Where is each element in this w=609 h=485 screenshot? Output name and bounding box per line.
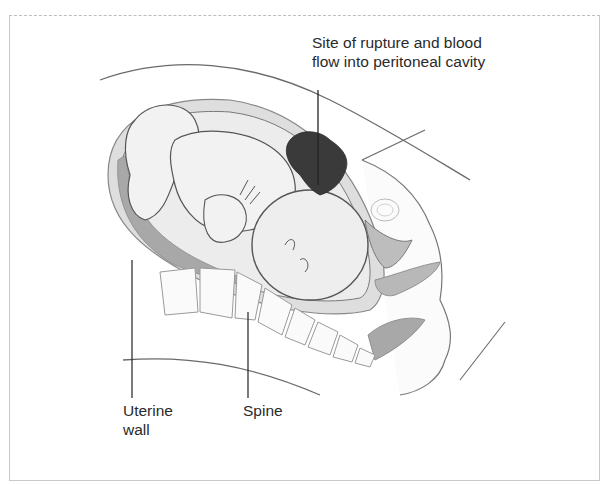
buttock-outline xyxy=(460,322,505,380)
label-rupture-line2: flow into peritoneal cavity xyxy=(312,52,552,71)
label-spine: Spine xyxy=(243,401,283,420)
label-rupture-site: Site of rupture and blood flow into peri… xyxy=(312,33,552,71)
label-uterine-line2: wall xyxy=(123,420,173,439)
label-rupture-line1: Site of rupture and blood xyxy=(312,33,552,52)
label-uterine-wall: Uterine wall xyxy=(123,401,173,439)
label-uterine-line1: Uterine xyxy=(123,401,173,420)
illustration xyxy=(0,0,609,485)
fetus-head xyxy=(252,190,368,300)
back-outline xyxy=(123,359,320,395)
